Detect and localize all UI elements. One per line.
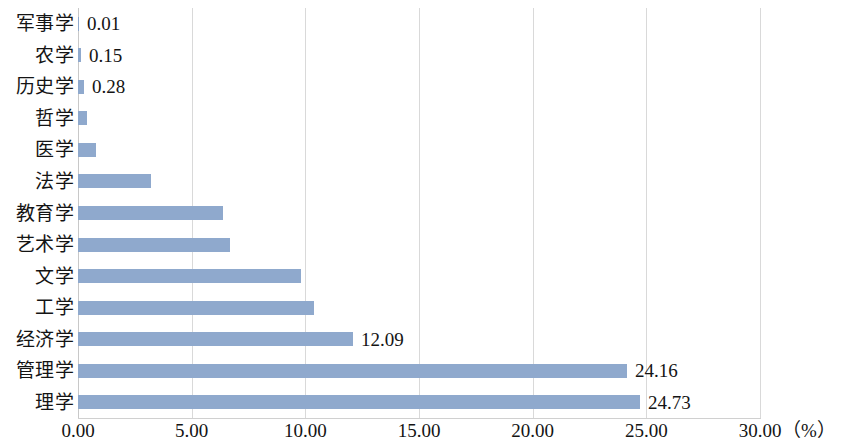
- category-label: 文学: [0, 267, 74, 286]
- category-axis-labels: 军事学农学历史学哲学医学法学教育学艺术学文学工学经济学管理学理学: [0, 8, 74, 418]
- x-axis-unit-label: （%）: [782, 420, 836, 441]
- bar: [78, 395, 640, 409]
- x-axis-baseline: [78, 418, 761, 419]
- x-axis-tick-labels: 0.005.0010.0015.0020.0025.0030.00（%）: [0, 420, 843, 441]
- gridline: [419, 8, 420, 418]
- bar-value-label: 12.09: [361, 330, 404, 349]
- x-tick-label: 15.00: [398, 420, 441, 441]
- category-label: 哲学: [0, 109, 74, 128]
- gridline: [533, 8, 534, 418]
- horizontal-bar-chart: 军事学农学历史学哲学医学法学教育学艺术学文学工学经济学管理学理学 0.005.0…: [0, 0, 843, 441]
- gridline: [646, 8, 647, 418]
- category-label: 艺术学: [0, 235, 74, 254]
- bar: [78, 301, 314, 315]
- category-label: 历史学: [0, 77, 74, 96]
- category-label: 管理学: [0, 361, 74, 380]
- bar: [78, 332, 353, 346]
- bar: [78, 48, 81, 62]
- x-tick-label: 5.00: [175, 420, 208, 441]
- category-label: 工学: [0, 298, 74, 317]
- gridline: [305, 8, 306, 418]
- category-label: 经济学: [0, 330, 74, 349]
- category-label: 理学: [0, 393, 74, 412]
- bar-value-label: 0.28: [92, 77, 125, 96]
- bar: [78, 17, 79, 31]
- x-tick-label: 25.00: [625, 420, 668, 441]
- x-tick-label: 0.00: [61, 420, 94, 441]
- bar: [78, 269, 301, 283]
- bar-value-label: 24.16: [635, 361, 678, 380]
- x-tick-label: 20.00: [511, 420, 554, 441]
- category-label: 军事学: [0, 14, 74, 33]
- x-tick-label: 30.00: [739, 420, 782, 441]
- bar: [78, 238, 230, 252]
- bar-value-label: 24.73: [648, 393, 691, 412]
- bar: [78, 111, 87, 125]
- category-label: 农学: [0, 46, 74, 65]
- bar-value-label: 0.01: [87, 14, 120, 33]
- bar: [78, 364, 627, 378]
- bar: [78, 80, 84, 94]
- category-label: 教育学: [0, 204, 74, 223]
- bar-value-label: 0.15: [89, 46, 122, 65]
- x-tick-label: 10.00: [284, 420, 327, 441]
- bar: [78, 143, 96, 157]
- category-label: 法学: [0, 172, 74, 191]
- plot-area: [78, 8, 760, 418]
- bar: [78, 174, 151, 188]
- bar: [78, 206, 223, 220]
- gridline: [760, 8, 761, 418]
- category-label: 医学: [0, 140, 74, 159]
